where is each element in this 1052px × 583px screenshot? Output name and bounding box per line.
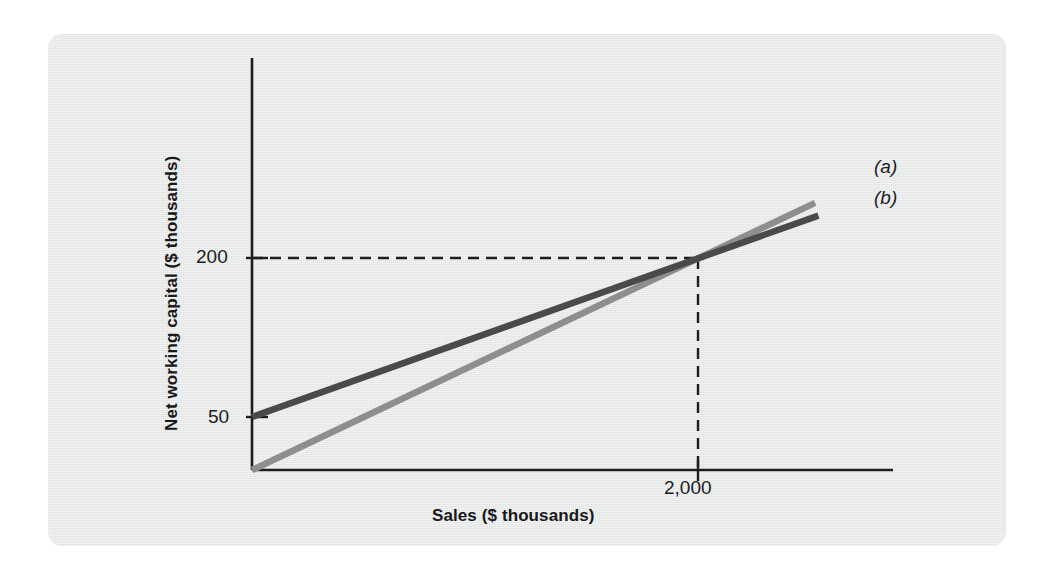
y-axis-title: Net working capital ($ thousands) bbox=[162, 156, 182, 431]
plot-canvas bbox=[0, 0, 1052, 583]
series-line-b bbox=[252, 216, 818, 417]
y-tick-label-200: 200 bbox=[196, 246, 228, 268]
series-label-b: (b) bbox=[874, 187, 897, 209]
series-label-a: (a) bbox=[874, 156, 897, 178]
series-line-a bbox=[252, 203, 815, 470]
figure-root: Net working capital ($ thousands) Sales … bbox=[0, 0, 1052, 583]
y-tick-label-50: 50 bbox=[208, 406, 229, 428]
x-tick-label-2000: 2,000 bbox=[664, 477, 712, 499]
x-axis-title: Sales ($ thousands) bbox=[432, 506, 595, 526]
